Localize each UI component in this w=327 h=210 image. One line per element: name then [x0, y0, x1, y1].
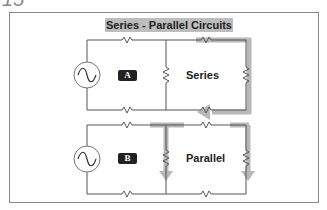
circuit-diagram [0, 0, 327, 210]
parallel-current-path-highlight [150, 125, 249, 172]
parallel-label: Parallel [186, 152, 225, 164]
parallel-arrow-down-icon-2 [241, 171, 255, 181]
series-arrow-left-icon [197, 104, 210, 120]
ac-source-icon-a [74, 62, 100, 88]
circuit-a-wires [87, 37, 249, 113]
series-label: Series [186, 69, 219, 81]
circuit-b-badge: B [118, 153, 137, 164]
ac-source-icon-b [74, 146, 100, 172]
circuit-a-badge: A [118, 70, 137, 81]
